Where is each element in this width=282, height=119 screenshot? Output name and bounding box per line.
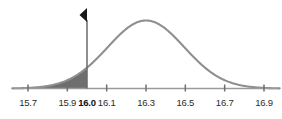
normal-distribution-chart: 15.715.916.016.116.316.516.716.9 (0, 0, 282, 119)
tick-label-16-9: 16.9 (255, 97, 273, 108)
tick-label-15-7: 15.7 (19, 97, 37, 108)
tick-label-16-0: 16.0 (78, 97, 96, 108)
tick-label-16-3: 16.3 (137, 97, 155, 108)
left-triangle-marker-icon (80, 8, 88, 22)
normal-curve (12, 21, 279, 89)
tick-label-16-7: 16.7 (216, 97, 234, 108)
tick-label-16-5: 16.5 (176, 97, 194, 108)
tick-label-15-9: 15.9 (58, 97, 76, 108)
tick-label-16-1: 16.1 (98, 97, 116, 108)
